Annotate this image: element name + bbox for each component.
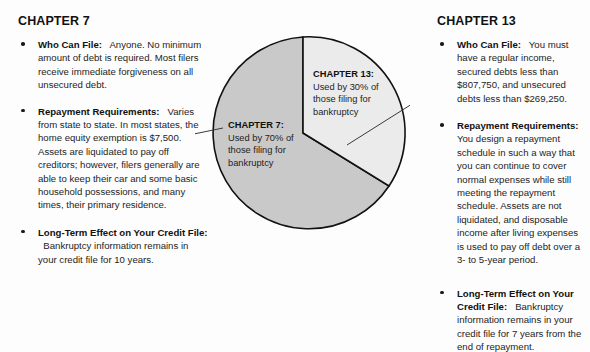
chapter-7-bullet-list: Who Can File: Anyone. No minimum amount … bbox=[18, 38, 209, 266]
pie-label-chapter-7-caption: Used by 70% of those filing for bankrupt… bbox=[228, 133, 294, 168]
chapter-7-column: CHAPTER 7 Who Can File: Anyone. No minim… bbox=[0, 0, 215, 266]
pie-label-chapter-7: CHAPTER 7: Used by 70% of those filing f… bbox=[228, 119, 306, 169]
bullet-dot-icon bbox=[21, 109, 25, 113]
bullet-spacer bbox=[581, 120, 584, 131]
pie-label-chapter-7-title: CHAPTER 7: bbox=[228, 119, 306, 132]
figure-page: CHAPTER 7 Who Can File: Anyone. No minim… bbox=[0, 0, 590, 352]
bullet-body: You design a repayment schedule in such … bbox=[457, 133, 580, 265]
bullet-dot-icon bbox=[440, 123, 444, 127]
bullet-lead: Repayment Requirements: bbox=[457, 120, 579, 131]
list-item: Long-Term Effect on Your Credit File: Ba… bbox=[18, 226, 209, 266]
bullet-dot-icon bbox=[440, 42, 444, 46]
bankruptcy-pie-chart: CHAPTER 7: Used by 70% of those filing f… bbox=[195, 20, 410, 265]
chapter-7-heading: CHAPTER 7 bbox=[18, 14, 209, 28]
bullet-body: Bankruptcy information remains in your c… bbox=[38, 240, 188, 264]
bullet-spacer bbox=[162, 106, 165, 117]
list-item: Long-Term Effect on Your Credit File: Ba… bbox=[437, 287, 586, 352]
bullet-body: Varies from state to state. In most stat… bbox=[38, 106, 200, 211]
pie-label-chapter-13-caption: Used by 30% of those filing for bankrupt… bbox=[313, 82, 379, 117]
chapter-13-heading: CHAPTER 13 bbox=[437, 14, 586, 28]
list-item: Repayment Requirements: You design a rep… bbox=[437, 119, 586, 266]
list-item: Who Can File: Anyone. No minimum amount … bbox=[18, 38, 209, 92]
bullet-lead: Repayment Requirements: bbox=[38, 106, 160, 117]
bullet-lead: Who Can File: bbox=[457, 39, 521, 50]
pie-label-chapter-13-title: CHAPTER 13: bbox=[313, 68, 389, 81]
pie-label-chapter-13: CHAPTER 13: Used by 30% of those filing … bbox=[313, 68, 389, 118]
list-item: Repayment Requirements: Varies from stat… bbox=[18, 105, 209, 212]
bullet-dot-icon bbox=[440, 291, 444, 295]
list-item: Who Can File: You must have a regular in… bbox=[437, 38, 586, 105]
bullet-lead: Who Can File: bbox=[38, 39, 102, 50]
chapter-13-bullet-list: Who Can File: You must have a regular in… bbox=[437, 38, 586, 352]
bullet-dot-icon bbox=[21, 42, 25, 46]
bullet-dot-icon bbox=[21, 230, 25, 234]
bullet-lead: Long-Term Effect on Your Credit File: bbox=[38, 227, 208, 238]
chapter-13-column: CHAPTER 13 Who Can File: You must have a… bbox=[425, 0, 590, 352]
